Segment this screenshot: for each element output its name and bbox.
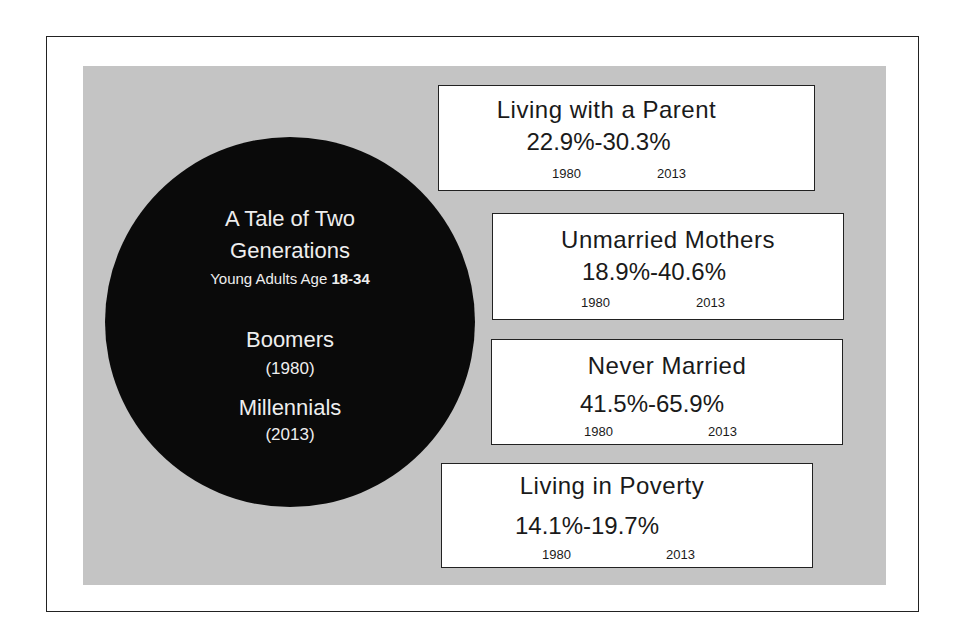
gen1-name: Boomers: [105, 327, 475, 353]
stat-value: 18.9%-40.6%: [493, 258, 815, 286]
stat-box-living-in-poverty: Living in Poverty 14.1%-19.7% 1980 2013: [441, 463, 813, 568]
stat-year-from: 1980: [552, 166, 581, 181]
stat-label: Never Married: [492, 352, 842, 380]
age-range: 18-34: [331, 270, 369, 287]
stat-label: Living in Poverty: [412, 472, 812, 500]
gen2-year: (2013): [105, 425, 475, 445]
stat-year-from: 1980: [581, 295, 610, 310]
stat-year-to: 2013: [696, 295, 725, 310]
stat-value: 22.9%-30.3%: [439, 128, 758, 156]
stat-box-never-married: Never Married 41.5%-65.9% 1980 2013: [491, 339, 843, 445]
stat-label: Living with a Parent: [399, 96, 814, 124]
stat-value: 41.5%-65.9%: [492, 390, 812, 418]
stat-label: Unmarried Mothers: [493, 226, 843, 254]
circle-subtitle: Young Adults Age 18-34: [105, 270, 475, 287]
gen1-year: (1980): [105, 359, 475, 379]
stat-box-unmarried-mothers: Unmarried Mothers 18.9%-40.6% 1980 2013: [492, 213, 844, 320]
stat-year-to: 2013: [708, 424, 737, 439]
stat-year-to: 2013: [666, 547, 695, 562]
stat-year-to: 2013: [657, 166, 686, 181]
title-line-2: Generations: [105, 235, 475, 267]
stat-box-living-with-parent: Living with a Parent 22.9%-30.3% 1980 20…: [438, 85, 815, 191]
stat-year-from: 1980: [584, 424, 613, 439]
stat-value: 14.1%-19.7%: [442, 512, 732, 540]
title-circle: A Tale of Two Generations Young Adults A…: [105, 137, 475, 507]
stat-year-from: 1980: [542, 547, 571, 562]
subtitle-text: Young Adults Age: [210, 270, 327, 287]
title-line-1: A Tale of Two: [105, 203, 475, 235]
circle-title: A Tale of Two Generations: [105, 203, 475, 267]
gen2-name: Millennials: [105, 395, 475, 421]
